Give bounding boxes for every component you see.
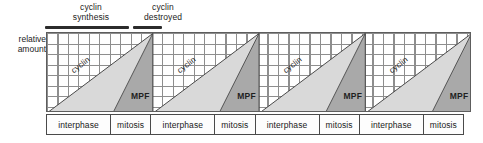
phase-label: mitosis [326,120,353,130]
mpf-curve-label-2: MPF [237,91,256,101]
annotation-cyclin-synthesis: cyclin synthesis [52,3,130,22]
phase-cell-mitosis-1: mitosis [110,114,151,135]
phase-cell-mitosis-4: mitosis [423,114,464,135]
annotation-cyclin-destroyed-line2: destroyed [128,13,198,23]
plot-area: cyclinMPFcyclinMPFcyclinMPFcyclinMPF [46,32,471,112]
phase-cell-interphase-1: interphase [46,114,111,135]
cell-cycle-diagram: cyclin synthesis cyclin destroyed relati… [0,0,483,143]
phase-label: mitosis [430,120,457,130]
phase-label: mitosis [221,120,248,130]
mpf-curve-label-3: MPF [343,91,362,101]
y-axis-label-line1: relative [2,34,46,44]
cyclin-synthesis-bar [45,26,129,29]
phase-cell-interphase-3: interphase [255,114,320,135]
phase-label: mitosis [117,120,144,130]
cyclin-mpf-curves [47,33,471,112]
phase-label: interphase [371,120,412,130]
y-axis-label-line2: amount [2,44,46,54]
phase-label-row: interphasemitosisinterphasemitosisinterp… [46,114,471,135]
phase-label: interphase [162,120,203,130]
phase-cell-interphase-2: interphase [150,114,215,135]
annotation-cyclin-destroyed: cyclin destroyed [128,3,198,22]
phase-label: interphase [267,120,308,130]
phase-label: interphase [58,120,99,130]
y-axis-label: relative amount [2,34,46,54]
cyclin-destroyed-bar [133,26,162,29]
mpf-curve-label-1: MPF [131,91,150,101]
phase-cell-mitosis-2: mitosis [214,114,255,135]
phase-cell-mitosis-3: mitosis [319,114,360,135]
phase-cell-interphase-4: interphase [359,114,424,135]
mpf-curve-label-4: MPF [450,91,469,101]
annotation-cyclin-synthesis-line2: synthesis [52,13,130,23]
